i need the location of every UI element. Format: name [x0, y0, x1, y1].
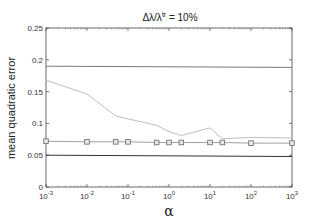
- y-tick-label: 0.15: [27, 88, 43, 97]
- y-tick-label: 0.25: [27, 24, 43, 33]
- x-tick-label: 100: [163, 190, 176, 201]
- square-marker: [208, 140, 213, 145]
- x-tick-label: 10-3: [39, 190, 54, 201]
- square-marker: [290, 141, 295, 146]
- x-tick-label: 101: [204, 190, 217, 201]
- x-axis-label: α: [164, 203, 174, 219]
- x-tick-label: 10-1: [121, 190, 136, 201]
- y-tick-label: 0: [39, 183, 44, 192]
- y-tick-label: 0.05: [27, 151, 43, 160]
- square-marker: [179, 140, 184, 145]
- x-tick-label: 103: [286, 190, 299, 201]
- y-axis-label: mean quadratic error: [5, 57, 17, 159]
- square-marker: [249, 141, 254, 146]
- y-tick-label: 0.1: [32, 119, 44, 128]
- square-marker: [126, 140, 131, 145]
- square-marker: [220, 140, 225, 145]
- x-tick-label: 102: [245, 190, 258, 201]
- y-tick-label: 0.2: [32, 56, 44, 65]
- square-marker: [44, 139, 49, 144]
- square-marker: [85, 140, 90, 145]
- square-marker: [167, 140, 172, 145]
- chart: Δλ/λtr = 10% 00.050.10.150.20.25 10-310-…: [0, 0, 313, 224]
- x-tick-label: 10-2: [80, 190, 95, 201]
- plot-area: [46, 28, 292, 187]
- chart-title: Δλ/λtr = 10%: [142, 11, 197, 23]
- square-marker: [154, 140, 159, 145]
- square-marker: [113, 140, 118, 145]
